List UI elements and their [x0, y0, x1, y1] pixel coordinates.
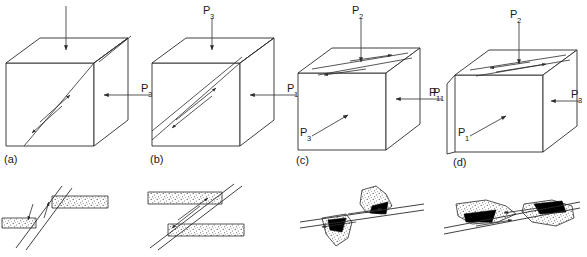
- section-b-bed-upper: [148, 192, 222, 204]
- panel-d-right-stress-sub: 3: [578, 96, 582, 105]
- panel-b-right-stress-sub: 1: [294, 90, 298, 99]
- panel-d-front-stress-sub: 1: [465, 134, 469, 143]
- panel-d-top-stress-sub: 2: [517, 16, 521, 25]
- structural-geology-figure: P 3 (a) P 3 P 1 (b): [0, 0, 587, 257]
- panel-d-tag: (d): [453, 156, 466, 168]
- panel-c-right-stress-sub: 1: [440, 94, 444, 103]
- panel-c-front-stress-sub: 3: [307, 134, 311, 143]
- figure-root: P 3 (a) P 3 P 1 (b): [0, 0, 587, 257]
- panel-a-front-face: [6, 63, 94, 146]
- panel-c-front-face: [298, 73, 386, 150]
- section-a-bed-left: [2, 218, 36, 228]
- section-a-bed-right: [52, 196, 108, 208]
- panel-c-top-stress-sub: 2: [359, 12, 363, 21]
- panel-a-right-stress-sub: 3: [148, 90, 152, 99]
- panel-a-tag: (a): [4, 153, 17, 165]
- panel-b-top-stress-sub: 3: [210, 12, 214, 21]
- panel-c-tag: (c): [296, 154, 309, 166]
- panel-b-tag: (b): [150, 153, 163, 165]
- panel-d-left-stress-sub: 1: [436, 94, 440, 103]
